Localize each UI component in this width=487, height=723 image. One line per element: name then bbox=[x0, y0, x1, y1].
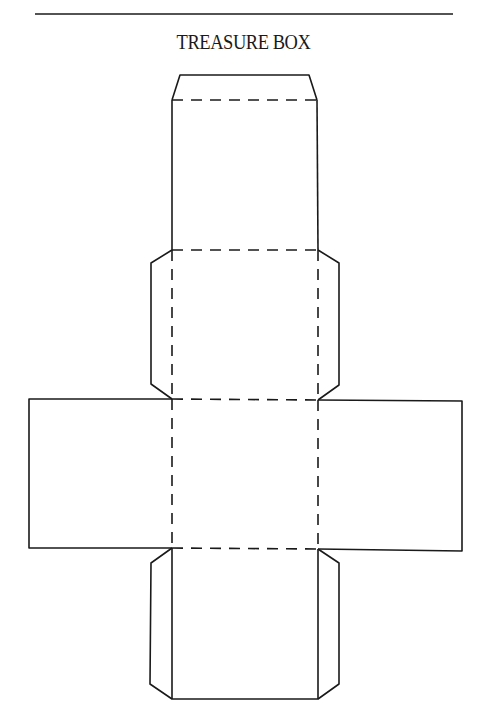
right-face bbox=[318, 400, 462, 551]
upper-right-dust-flap bbox=[318, 250, 339, 400]
box-net-diagram bbox=[0, 0, 487, 723]
left-face bbox=[29, 399, 172, 548]
top-tuck-flap bbox=[172, 75, 317, 100]
fold-line-upper-bottom bbox=[172, 399, 318, 400]
fold-line-center-bottom bbox=[172, 548, 318, 549]
bottom-face bbox=[172, 548, 318, 699]
diagram-title: TREASURE BOX bbox=[29, 30, 458, 55]
lid-panel-right-edge bbox=[317, 100, 318, 250]
lower-left-dust-flap bbox=[150, 548, 172, 699]
upper-left-dust-flap bbox=[151, 250, 172, 399]
lower-right-dust-flap bbox=[318, 549, 339, 699]
